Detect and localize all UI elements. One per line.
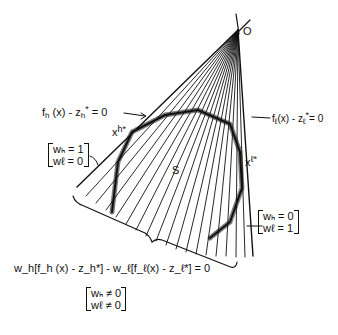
line-l-equation: fℓ(x) - zℓ*= 0 — [272, 111, 323, 126]
region-label: S — [172, 165, 179, 176]
brace — [73, 196, 237, 267]
point-l-star: xℓ* — [245, 155, 257, 168]
combined-equation: w_h[f_h (x) - z_h*] - w_ℓ[f_ℓ(x) - z_ℓ*]… — [14, 263, 210, 274]
weights-l-matrix: wₕ = 0 wℓ = 1 — [258, 210, 299, 234]
line-l-boundary — [238, 30, 253, 256]
fan-rays — [86, 30, 245, 257]
point-h-star: xh* — [112, 125, 126, 138]
line-h-equation: fh (x) - zh* = 0 — [42, 105, 107, 120]
weights-h-matrix: wₕ = 1 wℓ = 0 — [48, 143, 89, 167]
weights-mixed-matrix: wₕ ≠ 0 wℓ ≠ 0 — [86, 287, 126, 311]
cone-diagram — [0, 0, 338, 335]
origin-label: O — [243, 26, 252, 37]
